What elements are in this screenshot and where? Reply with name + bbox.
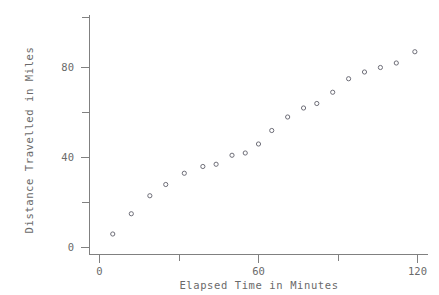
data-point: [182, 171, 186, 175]
scatter-plot: 80 40 0 0 60 120 Elapsed Time in Minutes…: [0, 0, 439, 295]
x-tick-label-60: 60: [252, 265, 265, 277]
data-point: [256, 142, 260, 146]
data-point: [347, 77, 351, 81]
y-tick-label-0: 0: [68, 241, 74, 253]
y-tick-label-80: 80: [61, 61, 74, 73]
data-point: [315, 101, 319, 105]
data-point: [243, 151, 247, 155]
data-point: [394, 61, 398, 65]
data-point: [362, 70, 366, 74]
chart-container: 80 40 0 0 60 120 Elapsed Time in Minutes…: [0, 0, 439, 295]
data-point: [286, 115, 290, 119]
y-axis-title: Distance Travelled in Miles: [23, 47, 35, 234]
x-tick-label-0: 0: [96, 265, 102, 277]
data-point: [230, 153, 234, 157]
data-point-group: [111, 50, 417, 236]
data-point: [164, 182, 168, 186]
data-point: [378, 65, 382, 69]
data-point: [301, 106, 305, 110]
y-tick-label-40: 40: [61, 151, 74, 163]
data-point: [270, 128, 274, 132]
x-axis-title: Elapsed Time in Minutes: [179, 279, 338, 291]
data-point: [413, 50, 417, 54]
data-point: [201, 164, 205, 168]
data-point: [214, 162, 218, 166]
data-point: [111, 232, 115, 236]
data-point: [129, 212, 133, 216]
data-point: [331, 90, 335, 94]
data-point: [148, 194, 152, 198]
x-tick-label-120: 120: [408, 265, 427, 277]
